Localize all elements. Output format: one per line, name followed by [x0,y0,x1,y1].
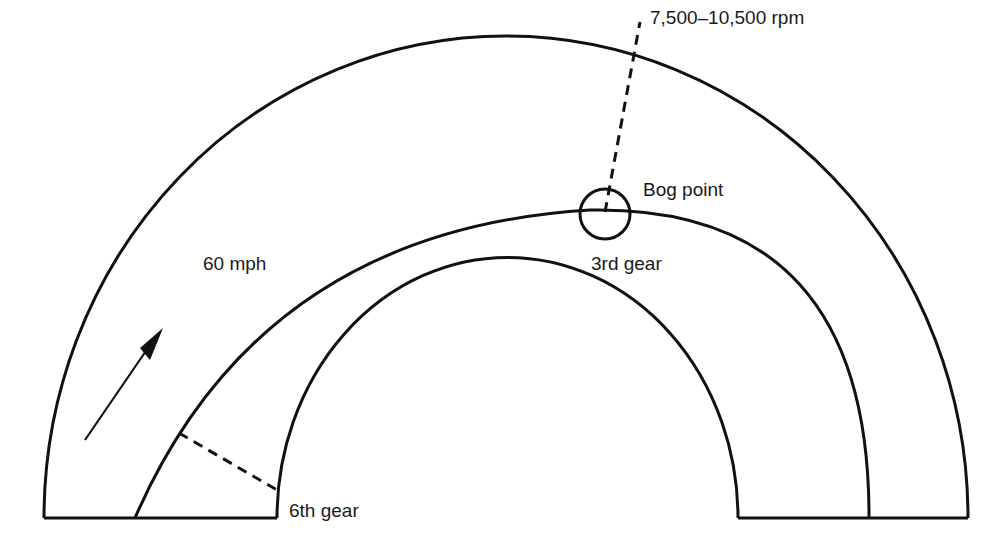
arrow-up-right-icon [85,328,163,440]
rpm-range-label: 7,500–10,500 rpm [650,7,804,28]
outer-track-edge [44,36,968,518]
inner-track-edge [277,257,738,518]
sixth-gear-dashed-line [179,433,277,490]
third-gear-label: 3rd gear [591,253,662,274]
bog-point-label: Bog point [643,179,724,200]
circle-marker-icon [580,189,630,239]
sixth-gear-label: 6th gear [289,500,359,521]
track-diagram: 7,500–10,500 rpm Bog point 3rd gear 60 m… [0,0,1007,550]
speed-label: 60 mph [203,253,266,274]
